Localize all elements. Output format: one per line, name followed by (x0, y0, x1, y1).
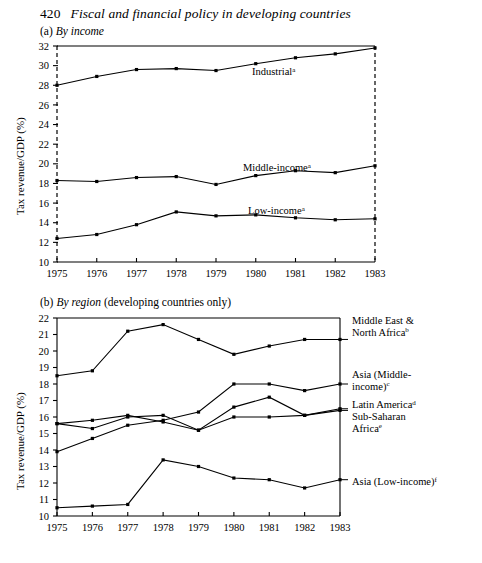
page-title: Fiscal and financial policy in developin… (71, 6, 351, 21)
panel-a-data-point (214, 214, 217, 217)
panel-b-data-point (303, 414, 306, 417)
panel-b-data-point (303, 338, 306, 341)
panel-b-data-point (162, 458, 165, 461)
panel-a-data-point (175, 67, 178, 70)
panel-a-y-tick-label: 10 (39, 257, 50, 268)
panel-a-data-point (214, 69, 217, 72)
panel-b-data-point (303, 486, 306, 489)
panel-a-y-tick-label: 24 (39, 119, 50, 130)
panel-a-y-tick-label: 20 (39, 158, 50, 169)
panel-b-y-tick-label: 22 (39, 313, 50, 324)
panel-b-data-point (91, 505, 94, 508)
panel-a-series-line (57, 166, 375, 185)
panel-a-x-tick-label: 1975 (47, 268, 68, 279)
panel-a-caption-emphasis: By income (56, 25, 104, 37)
panel-b-series-label-line1: Asia (Low-income) (352, 476, 435, 488)
panel-a-data-point (95, 233, 98, 236)
panel-a-data-point (95, 75, 98, 78)
panel-b-series-footnote: f (435, 476, 438, 484)
panel-b-caption-label: (b) (40, 296, 53, 308)
panel-b-data-point (91, 369, 94, 372)
panel-b-data-point (197, 465, 200, 468)
panel-a-series-label-text: Industrial (252, 66, 292, 77)
panel-a-data-point (254, 174, 257, 177)
panel-b-y-tick-label: 18 (39, 379, 50, 390)
panel-b-data-point (126, 503, 129, 506)
panel-b-x-tick-label: 1982 (294, 522, 315, 533)
panel-a-data-point (135, 223, 138, 226)
panel-b-y-tick-label: 15 (39, 428, 50, 439)
panel-b-y-tick-label: 14 (39, 445, 50, 456)
panel-a-series-label-text: Middle-income (243, 162, 308, 173)
panel-b-series-label: Asia (Middle-income)c (352, 369, 412, 393)
panel-b-data-point (91, 427, 94, 430)
panel-b-y-tick-label: 20 (39, 346, 50, 357)
panel-a-series-line (57, 48, 375, 85)
panel-b-y-tick-label: 11 (39, 494, 49, 505)
panel-a-x-tick-label: 1982 (325, 268, 346, 279)
panel-a-series-footnote: a (292, 66, 296, 74)
panel-a-y-tick-label: 18 (39, 178, 50, 189)
panel-b-y-tick-label: 17 (39, 395, 50, 406)
panel-b-data-point (268, 382, 271, 385)
panel-a-data-point (294, 216, 297, 219)
panel-b-x-tick-label: 1976 (82, 522, 103, 533)
panel-b-data-point (268, 396, 271, 399)
panel-a-series-label-text: Low-income (248, 205, 302, 216)
panel-b-data-point (91, 419, 94, 422)
panel-a-y-tick-label: 14 (39, 217, 50, 228)
panel-b-series-line (57, 384, 340, 452)
panel-b-caption-emphasis: By region (56, 296, 101, 308)
panel-b-x-tick-label: 1981 (259, 522, 280, 533)
panel-b-data-point (232, 415, 235, 418)
page-header: 420Fiscal and financial policy in develo… (40, 6, 351, 22)
panel-a-data-point (55, 179, 58, 182)
panel-a-series-footnote: a (308, 162, 312, 170)
panel-b-series-label-line1: Middle East & (352, 315, 414, 326)
panel-b-y-tick-label: 21 (39, 329, 50, 340)
panel-b-data-point (162, 323, 165, 326)
panel-b-series-line (57, 325, 340, 376)
panel-b-data-point (126, 415, 129, 418)
panel-b-y-tick-label: 16 (39, 412, 50, 423)
panel-b-series-label-line1: Asia (Middle- (352, 369, 412, 381)
panel-a-data-point (135, 176, 138, 179)
panel-b-y-tick-label: 13 (39, 461, 50, 472)
panel-a-data-point (334, 52, 337, 55)
panel-a-series-label: Industriala (252, 66, 296, 78)
panel-a-series-label: Low-incomea (248, 205, 306, 217)
panel-a-x-tick-label: 1983 (365, 268, 386, 279)
panel-a-y-tick-label: 26 (39, 100, 50, 111)
panel-b-data-point (232, 406, 235, 409)
panel-b-data-point (162, 414, 165, 417)
panel-b-data-point (232, 353, 235, 356)
panel-b-series-label-line2: income) (352, 381, 387, 393)
panel-a-caption-label: (a) (40, 25, 53, 37)
panel-b-series-footnote: c (386, 380, 389, 388)
panel-b-series-label: Asia (Low-income)f (352, 476, 438, 489)
panel-b-series-footnote: d (412, 399, 416, 407)
panel-b-data-point (55, 450, 58, 453)
panel-a-plot: 1012141618202224262830321975197619771978… (0, 38, 482, 290)
panel-b-x-tick-label: 1983 (330, 522, 351, 533)
panel-a-data-point (373, 217, 376, 220)
panel-b-data-point (268, 344, 271, 347)
panel-b-data-point (232, 382, 235, 385)
panel-a-x-tick-label: 1979 (206, 268, 227, 279)
panel-a-chart: 1012141618202224262830321975197619771978… (0, 38, 482, 290)
panel-a-data-point (373, 164, 376, 167)
panel-b-data-point (232, 476, 235, 479)
panel-b-data-point (162, 420, 165, 423)
panel-a-data-point (254, 62, 257, 65)
panel-a-data-point (294, 56, 297, 59)
panel-b-series-label-line1: Latin America (352, 399, 413, 410)
panel-b-series-line (57, 397, 340, 430)
panel-a-y-tick-label: 16 (39, 198, 50, 209)
panel-b-x-tick-label: 1975 (47, 522, 68, 533)
panel-b-data-point (55, 422, 58, 425)
panel-a-data-point (95, 180, 98, 183)
panel-a-x-tick-label: 1980 (245, 268, 266, 279)
panel-a-y-tick-label: 12 (39, 237, 50, 248)
panel-b-series-label-line2: North Africa (352, 327, 406, 338)
panel-a-data-point (334, 171, 337, 174)
